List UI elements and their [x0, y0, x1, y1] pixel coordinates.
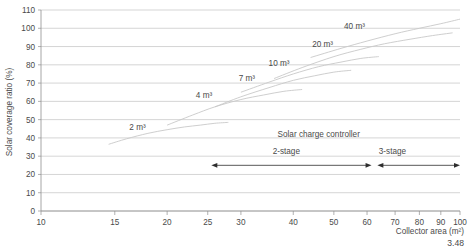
figure-number: 3.48 [447, 238, 464, 248]
x-tick-label: 15 [110, 218, 120, 227]
y-tick-label: 40 [26, 134, 36, 143]
curve-labels-group: 2 m³4 m³7 m³10 m³20 m³40 m³ [129, 22, 365, 132]
curve-label-7m3: 7 m³ [239, 74, 256, 83]
y-tick-label: 0 [30, 207, 35, 216]
y-tick-label: 80 [26, 61, 36, 70]
y-axis-title: Solar coverage ratio (%) [5, 68, 14, 157]
x-tick-label: 60 [362, 218, 372, 227]
gridlines-group [41, 10, 460, 211]
x-tick-label: 50 [329, 218, 339, 227]
y-tick-label: 50 [26, 116, 36, 125]
x-tick-label: 10 [36, 218, 46, 227]
curve-label-10m3: 10 m³ [269, 59, 290, 68]
y-tick-label: 90 [26, 43, 36, 52]
x-tick-label: 70 [391, 218, 401, 227]
y-tick-labels-group: 0102030405060708090100110 [21, 6, 35, 216]
curve-label-2m3: 2 m³ [129, 123, 146, 132]
figure-container: 0102030405060708090100110 10152025304050… [0, 0, 472, 249]
data-curve-2m3 [109, 122, 229, 144]
x-tick-label: 30 [236, 218, 246, 227]
curve-label-4m3: 4 m³ [196, 91, 213, 100]
data-curve-10m3 [241, 57, 379, 93]
x-tick-label: 20 [163, 218, 173, 227]
annotations-group: Solar charge controller2-stage3-stage [273, 130, 407, 156]
x-axis-title: Collector area (m²) [396, 227, 465, 236]
y-tick-label: 100 [21, 24, 35, 33]
range-bars-group [211, 163, 460, 168]
y-tick-label: 20 [26, 170, 36, 179]
x-tick-labels-group: 1015202530405060708090100 [36, 218, 467, 227]
x-tick-label: 80 [415, 218, 425, 227]
curve-label-20m3: 20 m³ [312, 40, 333, 49]
x-tick-label: 90 [436, 218, 446, 227]
x-tick-label: 100 [453, 218, 467, 227]
arrow-head-right [366, 163, 372, 168]
range-bar-two-stage-range [211, 163, 371, 168]
axes-group [41, 10, 460, 211]
y-tick-label: 60 [26, 97, 36, 106]
y-tick-label: 30 [26, 152, 36, 161]
data-curve-40m3 [311, 19, 460, 57]
annotation-solar-charge-controller: Solar charge controller [278, 130, 361, 139]
y-tick-label: 10 [26, 189, 36, 198]
annotation-three-stage: 3-stage [379, 147, 407, 156]
arrow-head-left [211, 163, 217, 168]
annotation-two-stage: 2-stage [273, 147, 301, 156]
range-bar-three-stage-range [377, 163, 460, 168]
x-tick-label: 40 [289, 218, 299, 227]
solar-coverage-chart: 0102030405060708090100110 10152025304050… [0, 0, 472, 249]
tick-marks-group [38, 10, 460, 215]
x-tick-label: 25 [203, 218, 213, 227]
data-curves-group [109, 19, 460, 144]
y-tick-label: 70 [26, 79, 36, 88]
y-tick-label: 110 [22, 6, 35, 15]
curve-label-40m3: 40 m³ [344, 22, 365, 31]
arrow-head-left [377, 163, 383, 168]
arrow-head-right [454, 163, 460, 168]
